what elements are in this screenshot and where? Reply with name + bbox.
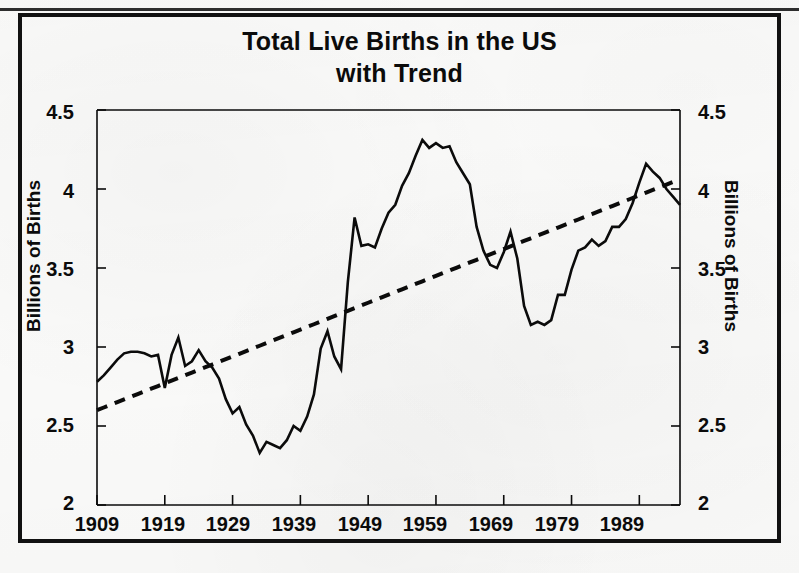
y-tick-left-3: 3.5: [14, 258, 74, 281]
scanned-chart-page: Total Live Births in the US with Trend B…: [0, 0, 799, 573]
y-tick-right-4: 4: [698, 180, 758, 203]
x-axis-ticks: [97, 495, 639, 505]
y-tick-right-0: 2: [698, 492, 758, 515]
y-tick-right-1: 2.5: [698, 414, 758, 437]
y-tick-left-5: 4.5: [14, 101, 74, 124]
chart-plot-svg: [0, 0, 799, 573]
y-tick-right-3: 3.5: [698, 258, 758, 281]
y-tick-left-1: 2.5: [14, 414, 74, 437]
y-tick-left-4: 4: [14, 180, 74, 203]
y-tick-right-2: 3: [698, 336, 758, 359]
y-tick-left-2: 3: [14, 336, 74, 359]
y-axis-left-ticks: [97, 110, 106, 505]
x-tick-8: 1989: [582, 513, 662, 536]
y-tick-right-5: 4.5: [698, 101, 758, 124]
y-tick-left-0: 2: [14, 492, 74, 515]
plot-region: Billions of Births Billions of Births 2 …: [0, 0, 799, 573]
y-axis-right-ticks: [671, 110, 680, 505]
